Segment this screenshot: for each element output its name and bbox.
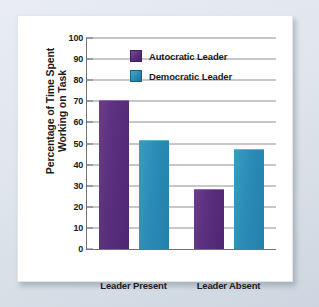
y-tick-label-10: 10 bbox=[73, 223, 83, 233]
tick-mark-20 bbox=[86, 206, 93, 207]
gridline-100 bbox=[86, 38, 276, 39]
y-tick-label-70: 70 bbox=[73, 96, 83, 106]
tick-mark-30 bbox=[86, 185, 93, 186]
y-tick-label-40: 40 bbox=[73, 160, 83, 170]
tick-mark-80 bbox=[86, 80, 93, 81]
y-tick-label-20: 20 bbox=[73, 202, 83, 212]
x-axis-baseline bbox=[86, 249, 276, 250]
tick-mark-40 bbox=[86, 164, 93, 165]
y-tick-label-90: 90 bbox=[73, 54, 83, 64]
y-tick-label-60: 60 bbox=[73, 117, 83, 127]
y-axis-title-line-1: Percentage of Time Spent bbox=[44, 48, 56, 174]
y-tick-label-50: 50 bbox=[73, 139, 83, 149]
y-axis-tick-labels: 0102030405060708090100 bbox=[62, 38, 83, 249]
legend-item-autocratic: Autocratic Leader bbox=[130, 47, 232, 65]
tick-mark-100 bbox=[86, 38, 93, 39]
y-tick-label-0: 0 bbox=[78, 244, 83, 254]
legend-swatch-autocratic-icon bbox=[130, 50, 142, 62]
tick-mark-70 bbox=[86, 101, 93, 102]
legend-item-democratic: Democratic Leader bbox=[130, 67, 232, 85]
tick-mark-90 bbox=[86, 59, 93, 60]
bar-democratic-leader-leader-absent bbox=[234, 149, 264, 249]
legend-label-democratic: Democratic Leader bbox=[149, 71, 232, 82]
chart-legend: Autocratic Leader Democratic Leader bbox=[130, 47, 232, 87]
tick-mark-50 bbox=[86, 143, 93, 144]
tick-mark-60 bbox=[86, 122, 93, 123]
legend-swatch-democratic-icon bbox=[130, 70, 142, 82]
bar-democratic-leader-leader-present bbox=[139, 140, 169, 249]
tick-mark-10 bbox=[86, 227, 93, 228]
bar-autocratic-leader-leader-absent bbox=[194, 189, 224, 249]
bar-autocratic-leader-leader-present bbox=[99, 100, 129, 249]
figure-outer-frame: Percentage of Time Spent Working on Task… bbox=[0, 0, 319, 307]
x-label-leader-present: Leader Present bbox=[100, 280, 167, 291]
chart-panel: Percentage of Time Spent Working on Task… bbox=[17, 15, 293, 282]
legend-label-autocratic: Autocratic Leader bbox=[149, 51, 227, 62]
y-tick-label-80: 80 bbox=[73, 75, 83, 85]
y-tick-label-30: 30 bbox=[73, 181, 83, 191]
x-label-leader-absent: Leader Absent bbox=[197, 280, 261, 291]
y-tick-label-100: 100 bbox=[69, 33, 83, 43]
